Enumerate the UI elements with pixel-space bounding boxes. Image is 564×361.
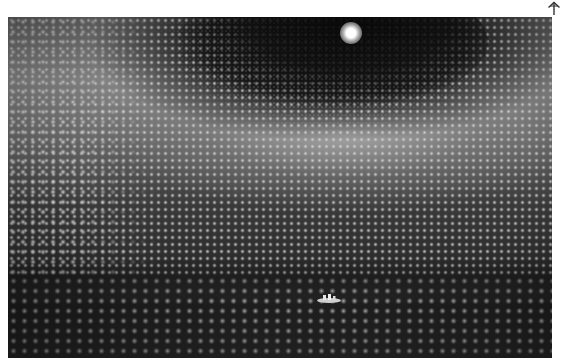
photo-vignette: [8, 17, 552, 358]
detector-interior-photo: [8, 17, 552, 358]
ceiling-light: [340, 22, 362, 44]
boat: [316, 293, 342, 303]
page: [0, 0, 564, 361]
up-arrow-icon: [547, 1, 561, 16]
